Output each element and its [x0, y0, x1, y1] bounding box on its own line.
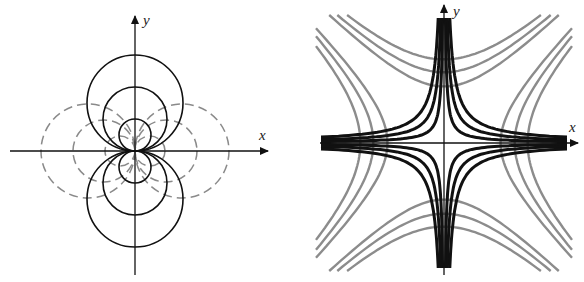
y-axis-label: y	[141, 12, 150, 28]
x-axis-label: x	[258, 127, 266, 143]
right-quadrupole-diagram: x y	[316, 3, 578, 275]
y-axis-label: y	[451, 3, 460, 19]
x-axis-label: x	[568, 119, 576, 135]
figure-canvas: x y x y	[0, 0, 584, 282]
left-dipole-diagram: x y	[10, 12, 268, 275]
